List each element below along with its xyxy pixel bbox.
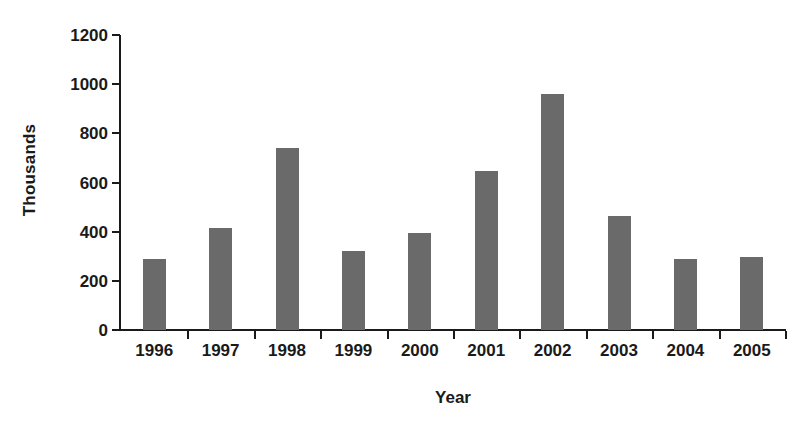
x-tick-mark [453, 331, 455, 339]
x-axis-tick-labels: 1996199719981999200020012002200320042005 [121, 341, 785, 367]
y-tick-label: 600 [46, 174, 108, 191]
x-axis-title: Year [121, 388, 785, 408]
bar [674, 259, 697, 330]
x-tick-label: 2000 [387, 341, 453, 361]
x-tick-mark [519, 331, 521, 339]
y-tick-mark [112, 329, 120, 331]
y-tick-label: 400 [46, 223, 108, 240]
plot-area [121, 35, 785, 330]
x-tick-label: 2002 [520, 341, 586, 361]
bar [475, 171, 498, 330]
bar [608, 216, 631, 330]
x-tick-mark [254, 331, 256, 339]
x-tick-label: 2004 [652, 341, 718, 361]
y-tick-label: 1200 [46, 27, 108, 44]
x-tick-label: 1996 [121, 341, 187, 361]
x-tick-mark [785, 331, 787, 339]
y-tick-label: 1000 [46, 76, 108, 93]
bar [541, 94, 564, 330]
x-tick-label: 2005 [719, 341, 785, 361]
x-tick-label: 2003 [586, 341, 652, 361]
bar [276, 148, 299, 330]
x-tick-mark [719, 331, 721, 339]
x-tick-mark [652, 331, 654, 339]
x-tick-mark [387, 331, 389, 339]
y-tick-mark [112, 83, 120, 85]
y-tick-mark [112, 34, 120, 36]
x-tick-mark [586, 331, 588, 339]
bar [342, 251, 365, 330]
bar [408, 233, 431, 330]
x-tick-label: 1999 [320, 341, 386, 361]
y-tick-mark [112, 280, 120, 282]
y-tick-label: 0 [46, 322, 108, 339]
y-axis-title: Thousands [0, 0, 60, 340]
x-tick-label: 1997 [188, 341, 254, 361]
y-tick-mark [112, 231, 120, 233]
x-tick-mark [320, 331, 322, 339]
x-tick-mark [187, 331, 189, 339]
bar [143, 259, 166, 330]
bar-chart-figure: Thousands 020040060080010001200 19961997… [0, 0, 812, 430]
x-tick-label: 1998 [254, 341, 320, 361]
y-tick-label: 200 [46, 272, 108, 289]
y-tick-mark [112, 182, 120, 184]
y-axis-tick-labels: 020040060080010001200 [46, 0, 108, 430]
y-axis-title-text: Thousands [20, 124, 40, 216]
bar [209, 228, 232, 330]
y-tick-label: 800 [46, 125, 108, 142]
x-tick-label: 2001 [453, 341, 519, 361]
bar [740, 257, 763, 330]
y-tick-mark [112, 132, 120, 134]
